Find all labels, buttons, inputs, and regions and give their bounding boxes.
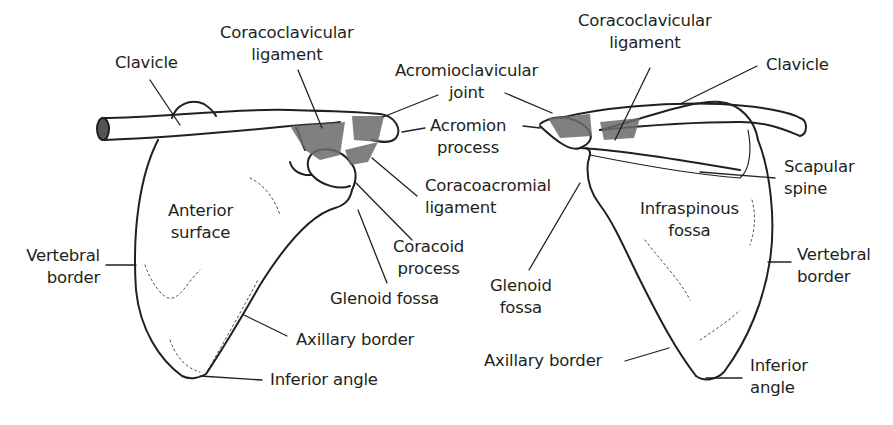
label-coracoclavicular-anterior: Coracoclavicular ligament — [220, 22, 354, 66]
label-anterior-surface: Anterior surface — [168, 200, 233, 244]
anterior-ligaments — [290, 116, 384, 165]
label-coracoclavicular-posterior: Coracoclavicular ligament — [578, 10, 712, 54]
label-vertebral-border-posterior: Vertebral border — [797, 244, 871, 288]
label-clavicle-anterior: Clavicle — [115, 52, 178, 74]
label-vertebral-border-anterior: Vertebral border — [16, 245, 100, 289]
label-infraspinous-fossa: Infraspinous fossa — [640, 198, 739, 242]
label-acromion-process: Acromion process — [430, 115, 506, 159]
label-acromioclavicular-joint: Acromioclavicular joint — [395, 60, 538, 104]
label-axillary-border-posterior: Axillary border — [484, 350, 602, 372]
label-axillary-border-anterior: Axillary border — [296, 329, 414, 351]
label-glenoid-fossa-posterior: Glenoid fossa — [490, 275, 552, 319]
label-scapular-spine: Scapular spine — [784, 156, 854, 200]
label-inferior-angle-anterior: Inferior angle — [270, 369, 378, 391]
label-coracoacromial-ligament: Coracoacromial ligament — [425, 175, 551, 219]
label-inferior-angle-posterior: Inferior angle — [750, 355, 808, 399]
label-clavicle-posterior: Clavicle — [766, 54, 829, 76]
posterior-clavicle — [560, 104, 806, 136]
label-glenoid-fossa-anterior: Glenoid fossa — [330, 288, 439, 310]
label-coracoid-process: Coracoid process — [393, 236, 464, 280]
